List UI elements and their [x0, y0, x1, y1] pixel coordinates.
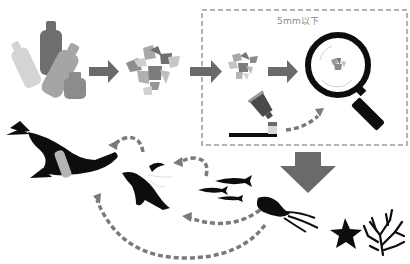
seal-icon — [6, 121, 118, 179]
bottles-icon — [6, 21, 86, 100]
penguin-icon — [122, 163, 172, 210]
diagram-canvas — [0, 0, 410, 264]
size-limit-label: 5mm以下 — [277, 14, 319, 27]
plastic-fragments-icon — [126, 45, 180, 95]
arrow-right-icon — [268, 60, 298, 83]
small-fragments-icon — [228, 52, 258, 80]
starfish-icon — [330, 218, 362, 249]
squid-icon — [257, 197, 318, 232]
toothbrush-icon — [229, 122, 277, 137]
arrow-right-icon — [89, 60, 119, 83]
arrow-down-icon — [280, 152, 336, 193]
fish-school-icon — [198, 175, 252, 202]
coral-icon — [364, 210, 404, 255]
dashed-arrow-icon — [286, 108, 324, 130]
arrow-right-icon — [190, 60, 222, 83]
magnifying-glass-icon — [308, 35, 385, 131]
toothpaste-icon — [248, 90, 278, 122]
